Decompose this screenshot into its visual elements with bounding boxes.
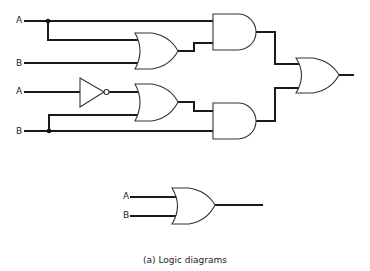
or-gate-simple — [172, 188, 215, 224]
or-gate-2 — [135, 84, 178, 121]
not-gate-bubble — [104, 90, 109, 95]
or-gate-final — [296, 58, 339, 93]
not-gate — [80, 78, 104, 107]
junction-dot-a — [46, 19, 51, 24]
and-gate-2 — [213, 103, 256, 139]
junction-dot-b — [47, 129, 52, 134]
and-gate-1 — [213, 14, 256, 50]
diagram-caption: (a) Logic diagrams — [0, 255, 370, 265]
or-gate-1 — [135, 33, 178, 69]
logic-diagram-canvas — [0, 0, 370, 271]
